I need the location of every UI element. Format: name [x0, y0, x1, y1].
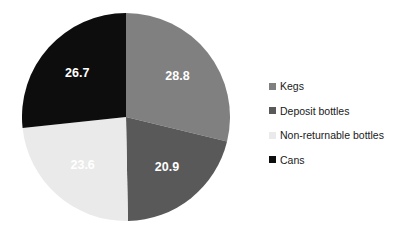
legend-swatch-non-returnable-bottles: [269, 132, 276, 139]
legend-item[interactable]: Non-returnable bottles: [269, 123, 416, 148]
pie-data-label: 20.9: [155, 160, 179, 174]
legend-item-label: Cans: [280, 155, 305, 166]
pie-data-label: 23.6: [70, 158, 94, 172]
chart-legend: KegsDeposit bottlesNon-returnable bottle…: [269, 74, 416, 172]
legend-swatch-kegs: [269, 83, 276, 90]
legend-item[interactable]: Cans: [269, 148, 416, 173]
pie-chart-plot-area: 28.820.923.626.7: [22, 13, 230, 221]
pie-chart-figure: 28.820.923.626.7 KegsDeposit bottlesNon-…: [0, 0, 416, 233]
legend-item-label: Non-returnable bottles: [280, 130, 384, 141]
legend-swatch-cans: [269, 156, 276, 163]
pie-data-label: 26.7: [65, 66, 89, 80]
legend-swatch-deposit-bottles: [269, 107, 276, 114]
pie-chart-svg: 28.820.923.626.7: [22, 13, 230, 221]
pie-slice-group: [22, 13, 230, 221]
legend-item-label: Deposit bottles: [280, 106, 349, 117]
legend-item[interactable]: Kegs: [269, 74, 416, 99]
legend-item[interactable]: Deposit bottles: [269, 99, 416, 124]
pie-data-label: 28.8: [165, 69, 189, 83]
legend-item-label: Kegs: [280, 81, 304, 92]
